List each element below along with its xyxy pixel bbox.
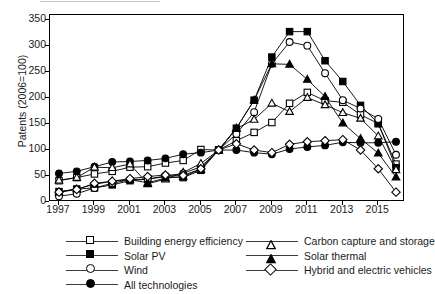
legend-label: Wind [118, 265, 148, 276]
legend-item: All technologies [66, 278, 241, 293]
y-tick-mark [45, 201, 49, 202]
legend-marker-square-open-icon [66, 235, 118, 248]
series-canvas [50, 15, 405, 202]
legend-marker-triangle-filled-icon [246, 249, 298, 262]
y-tick-label: 100 [6, 143, 46, 154]
legend-symbol [86, 250, 94, 258]
y-tick-label: 150 [6, 117, 46, 128]
legend-item: Hybrid and electric vehicles [246, 263, 414, 278]
y-tick-label: 300 [6, 39, 46, 50]
legend-symbol [266, 250, 276, 260]
legend-label: All technologies [118, 280, 198, 291]
cropped-caption-sliver [40, 0, 160, 3]
x-tick-label: 2001 [109, 204, 149, 215]
legend: Building energy efficiencySolar PVWindAl… [66, 234, 406, 292]
legend-label: Building energy efficiency [118, 236, 243, 247]
series-all-technologies [56, 138, 400, 176]
x-tick-label: 2007 [215, 204, 255, 215]
x-tick-label: 2009 [251, 204, 291, 215]
plot-area [49, 14, 404, 201]
legend-column-right: Carbon capture and storageSolar thermalH… [246, 234, 414, 278]
legend-marker-triangle-open-icon [246, 235, 298, 248]
legend-item: Solar thermal [246, 249, 414, 264]
legend-marker-circle-filled-icon [66, 278, 118, 291]
legend-symbol [86, 264, 95, 273]
y-tick-label: 250 [6, 65, 46, 76]
y-tick-label: 350 [6, 13, 46, 24]
series-building-energy-efficiency [56, 89, 399, 184]
legend-symbol [86, 279, 95, 288]
legend-item: Wind [66, 263, 241, 278]
x-tick-label: 1999 [73, 204, 113, 215]
legend-column-left: Building energy efficiencySolar PVWindAl… [66, 234, 241, 292]
series-wind [56, 39, 400, 200]
series-carbon-capture-and-storage [55, 94, 400, 187]
legend-marker-square-filled-icon [66, 249, 118, 262]
legend-label: Carbon capture and storage [298, 236, 435, 247]
legend-label: Hybrid and electric vehicles [298, 265, 432, 276]
legend-item: Building energy efficiency [66, 234, 241, 249]
x-tick-label: 1997 [38, 204, 78, 215]
legend-item: Carbon capture and storage [246, 234, 414, 249]
legend-marker-diamond-open-icon [246, 264, 298, 277]
x-tick-label: 2005 [180, 204, 220, 215]
legend-label: Solar thermal [298, 251, 366, 262]
x-tick-label: 2015 [357, 204, 397, 215]
x-tick-label: 2013 [322, 204, 362, 215]
legend-symbol [266, 236, 276, 246]
y-tick-label: 200 [6, 91, 46, 102]
x-tick-label: 2011 [286, 204, 326, 215]
y-tick-label: 50 [6, 169, 46, 180]
legend-label: Solar PV [118, 251, 165, 262]
legend-marker-circle-open-icon [66, 264, 118, 277]
x-tick-label: 2003 [144, 204, 184, 215]
series-solar-thermal [55, 60, 400, 195]
legend-symbol [264, 263, 277, 276]
legend-item: Solar PV [66, 249, 241, 264]
series-hybrid-and-electric-vehicles [55, 135, 400, 196]
series-solar-pv [56, 28, 399, 194]
legend-symbol [86, 236, 94, 244]
